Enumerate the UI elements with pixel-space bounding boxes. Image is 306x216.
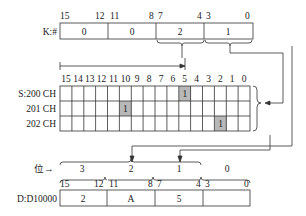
bit-range-indicator bbox=[60, 58, 185, 70]
grid-bit-header: 0 bbox=[242, 74, 247, 84]
grid-bit-header: 9 bbox=[135, 74, 140, 84]
d-bit-label: 15 bbox=[60, 179, 70, 189]
grid-bit-header: 11 bbox=[109, 74, 118, 84]
d-register bbox=[60, 190, 250, 206]
d-nibble-3: 2 bbox=[81, 194, 86, 204]
k-bit-label: 4 bbox=[197, 11, 202, 21]
row-label-202: 202 CH bbox=[26, 119, 56, 129]
d-bit-label: 8 bbox=[148, 179, 153, 189]
brace-k-nibble-2 bbox=[157, 40, 204, 46]
d-bit-label: 4 bbox=[196, 179, 201, 189]
k-register bbox=[60, 23, 283, 105]
grid-bit-header: 5 bbox=[182, 74, 187, 84]
digit-label-2: 2 bbox=[129, 164, 134, 174]
k-nibble-2: 0 bbox=[130, 27, 135, 37]
grid-bit-header: 1 bbox=[230, 74, 235, 84]
d-bit-label: 0 bbox=[244, 179, 249, 189]
k-bit-label: 8 bbox=[149, 11, 154, 21]
k-bit-label: 3 bbox=[206, 11, 211, 21]
grid-bit-header: 8 bbox=[147, 74, 152, 84]
row-label-201: 201 CH bbox=[26, 104, 56, 114]
set-bit-value: 1 bbox=[183, 89, 188, 99]
grid-bit-header: 2 bbox=[218, 74, 223, 84]
k-register-label: K:# bbox=[43, 27, 58, 37]
grid-bit-header: 3 bbox=[206, 74, 211, 84]
digit-label-3: 3 bbox=[80, 164, 85, 174]
d-bit-label: 11 bbox=[109, 179, 118, 189]
row-label-200: S:200 CH bbox=[18, 89, 56, 99]
d-nibble-1: 5 bbox=[177, 194, 182, 204]
d-register-label: D:D10000 bbox=[17, 194, 57, 204]
k-bit-label: 12 bbox=[95, 11, 105, 21]
grid-bit-header: 15 bbox=[61, 74, 71, 84]
d-nibble-2: A bbox=[128, 194, 135, 204]
bit-encode-diagram: 15 12 11 8 7 4 3 0 K:# 0 0 2 1 15 14 13 … bbox=[0, 0, 306, 216]
digit-prefix: 位→ bbox=[34, 163, 54, 174]
d-bit-label: 3 bbox=[205, 179, 210, 189]
digit-braces bbox=[60, 159, 250, 183]
d-bit-label: 12 bbox=[94, 179, 104, 189]
set-bit-value: 1 bbox=[123, 104, 128, 114]
d-bit-label: 7 bbox=[157, 179, 162, 189]
k-bit-label: 7 bbox=[158, 11, 163, 21]
set-bit-value: 1 bbox=[218, 119, 223, 129]
k-nibble-1: 2 bbox=[178, 27, 183, 37]
grid-bit-header: 12 bbox=[97, 74, 107, 84]
digit-label-1: 1 bbox=[177, 164, 182, 174]
grid-bit-header: 6 bbox=[171, 74, 176, 84]
k-bit-label: 15 bbox=[60, 11, 70, 21]
grid-bit-header: 13 bbox=[85, 74, 95, 84]
grid-bit-header: 7 bbox=[159, 74, 164, 84]
grid-bit-header: 4 bbox=[194, 74, 199, 84]
k-bit-label: 11 bbox=[110, 11, 119, 21]
grid-bit-header: 10 bbox=[121, 74, 131, 84]
k-bit-label: 0 bbox=[245, 11, 250, 21]
source-grid bbox=[60, 86, 261, 131]
k-nibble-0: 1 bbox=[226, 27, 231, 37]
grid-bit-header: 14 bbox=[73, 74, 83, 84]
brace-rows bbox=[253, 86, 261, 131]
k-nibble-3: 0 bbox=[82, 27, 87, 37]
brace-k-nibble-1 bbox=[205, 40, 252, 46]
digit-label-0: 0 bbox=[225, 164, 230, 174]
